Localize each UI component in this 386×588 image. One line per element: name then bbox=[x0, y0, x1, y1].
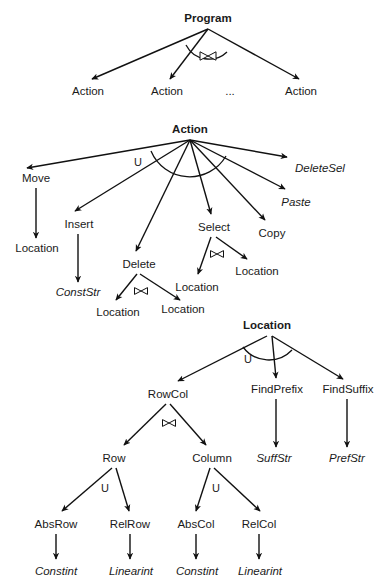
node-absrow-constint[interactable]: Constint bbox=[35, 565, 78, 577]
node-relcol[interactable]: RelCol bbox=[242, 518, 277, 530]
node-move-location[interactable]: Location bbox=[15, 242, 58, 254]
node-delete-location-left[interactable]: Location bbox=[96, 306, 139, 318]
node-select-location-left[interactable]: Location bbox=[175, 281, 218, 293]
node-delete-location-right[interactable]: Location bbox=[161, 303, 204, 315]
node-select[interactable]: Select bbox=[198, 221, 231, 233]
node-select-location-right[interactable]: Location bbox=[235, 265, 278, 277]
node-prefstr[interactable]: PrefStr bbox=[329, 452, 366, 464]
node-action-1[interactable]: Action bbox=[72, 85, 104, 97]
operator-union-location: U bbox=[244, 353, 252, 365]
node-copy[interactable]: Copy bbox=[259, 227, 286, 239]
node-relcol-linearint[interactable]: Linearint bbox=[238, 565, 283, 577]
grammar-tree-svg: Program Action Action ... Action Action … bbox=[0, 0, 386, 588]
grammar-diagram: Program Action Action ... Action Action … bbox=[0, 0, 386, 588]
node-insert[interactable]: Insert bbox=[65, 218, 95, 230]
node-action-root[interactable]: Action bbox=[172, 123, 208, 135]
node-abscol[interactable]: AbsCol bbox=[177, 518, 214, 530]
node-rowcol[interactable]: RowCol bbox=[148, 388, 188, 400]
node-move[interactable]: Move bbox=[22, 172, 50, 184]
node-deletesel[interactable]: DeleteSel bbox=[295, 162, 345, 174]
node-row[interactable]: Row bbox=[102, 452, 126, 464]
node-findprefix[interactable]: FindPrefix bbox=[251, 383, 303, 395]
node-column[interactable]: Column bbox=[192, 452, 232, 464]
node-ellipsis: ... bbox=[225, 85, 235, 97]
node-paste[interactable]: Paste bbox=[281, 196, 310, 208]
node-delete[interactable]: Delete bbox=[122, 258, 155, 270]
node-relrow[interactable]: RelRow bbox=[110, 518, 151, 530]
node-action-3[interactable]: Action bbox=[285, 85, 317, 97]
operator-union-column: U bbox=[212, 482, 220, 494]
node-absrow[interactable]: AbsRow bbox=[35, 518, 79, 530]
node-program[interactable]: Program bbox=[184, 12, 231, 24]
node-insert-conststr[interactable]: ConstStr bbox=[56, 286, 102, 298]
node-action-2[interactable]: Action bbox=[151, 85, 183, 97]
node-location-root[interactable]: Location bbox=[243, 319, 291, 331]
node-relrow-linearint[interactable]: Linearint bbox=[109, 565, 154, 577]
node-findsuffix[interactable]: FindSuffix bbox=[323, 383, 374, 395]
node-abscol-constint[interactable]: Constint bbox=[176, 565, 219, 577]
node-suffstr[interactable]: SuffStr bbox=[256, 452, 292, 464]
operator-union-action: U bbox=[134, 156, 142, 168]
operator-union-row: U bbox=[101, 482, 109, 494]
